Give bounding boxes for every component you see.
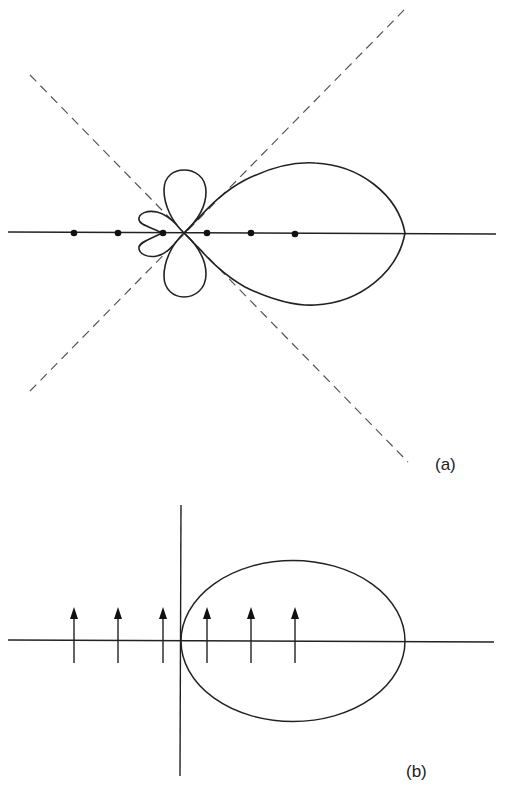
element-dot-4: [204, 230, 211, 237]
element-dot-5: [248, 230, 255, 237]
lower-side-lobe: [164, 233, 206, 297]
dipole-arrow-3: [159, 607, 167, 663]
element-dot-6: [292, 231, 299, 238]
panel-b: [8, 505, 494, 776]
dipole-arrow-4: [203, 607, 211, 663]
panel-a: [8, 7, 496, 462]
dipole-arrow-2: [114, 607, 122, 663]
left-lower-lobe: [139, 234, 177, 257]
dipole-arrows: [70, 607, 299, 663]
upper-side-lobe: [164, 170, 206, 233]
dipole-arrow-5: [247, 607, 255, 663]
element-dot-2: [115, 230, 122, 237]
left-upper-lobe: [139, 211, 177, 232]
dipole-arrow-1: [70, 607, 78, 663]
diagram-canvas: [0, 0, 507, 794]
panel-a-label: (a): [435, 455, 456, 475]
element-dot-3: [160, 230, 167, 237]
dipole-arrow-6: [291, 607, 299, 663]
panel-b-label: (b): [406, 762, 427, 782]
element-dot-1: [71, 230, 78, 237]
